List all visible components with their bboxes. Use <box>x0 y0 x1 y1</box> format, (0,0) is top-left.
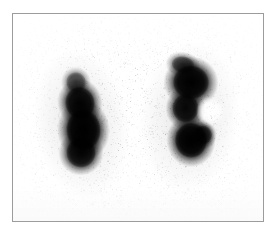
scintigram-page <box>0 0 277 236</box>
renal-scintigram-image <box>13 14 263 221</box>
scan-image-frame <box>12 13 264 222</box>
